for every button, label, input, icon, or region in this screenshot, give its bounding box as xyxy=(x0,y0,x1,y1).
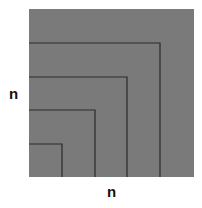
side-label-bottom: n xyxy=(107,184,116,199)
nested-square-diagram xyxy=(29,9,194,177)
side-label-left: n xyxy=(9,86,18,101)
outer-square xyxy=(29,9,194,177)
